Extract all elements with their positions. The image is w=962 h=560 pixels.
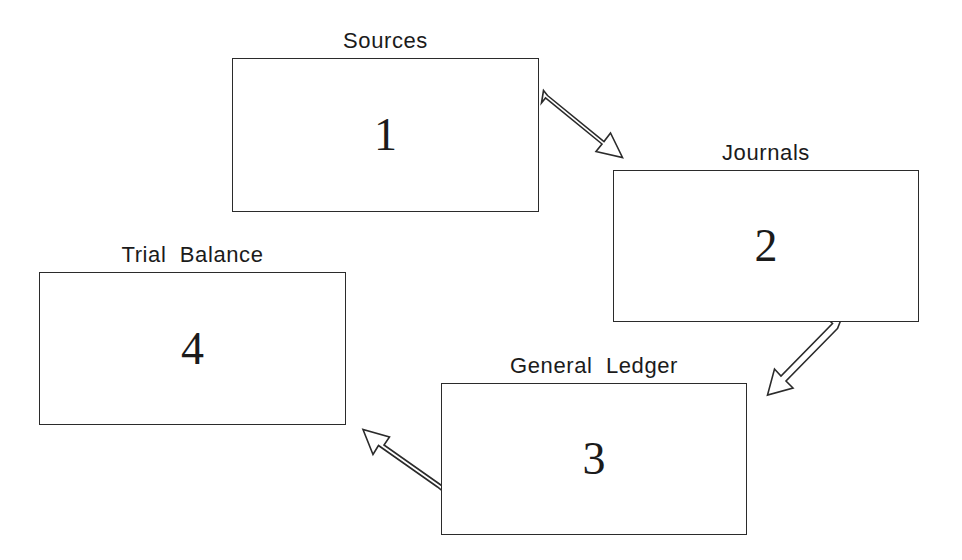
arrow-sources-to-journals — [542, 91, 623, 158]
node-general-ledger[interactable]: General Ledger 3 — [441, 383, 747, 535]
node-number-general-ledger: 3 — [441, 383, 747, 535]
node-label-trial-balance: Trial Balance — [39, 243, 346, 267]
diagram-canvas: Sources 1 Journals 2 General Ledger 3 Tr… — [0, 0, 962, 560]
node-number-journals: 2 — [613, 170, 919, 322]
node-number-sources: 1 — [232, 58, 539, 212]
node-journals[interactable]: Journals 2 — [613, 170, 919, 322]
node-trial-balance[interactable]: Trial Balance 4 — [39, 272, 346, 425]
node-sources[interactable]: Sources 1 — [232, 58, 539, 212]
node-label-general-ledger: General Ledger — [441, 354, 747, 378]
node-label-sources: Sources — [232, 29, 539, 53]
arrow-journals-to-general-ledger — [768, 319, 841, 395]
node-label-journals: Journals — [613, 141, 919, 165]
arrow-general-ledger-to-trial-balance — [363, 430, 447, 494]
node-number-trial-balance: 4 — [39, 272, 346, 425]
